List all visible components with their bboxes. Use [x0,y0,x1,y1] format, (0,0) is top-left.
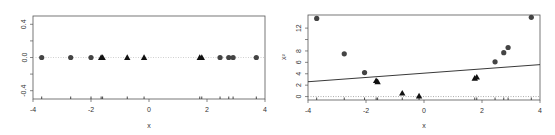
triangle-data-point [416,93,422,99]
circle-data-point [501,50,506,55]
circle-data-point [492,59,497,64]
y-tick-label: 0 [296,95,303,99]
plot-frame [308,15,540,100]
x-tick-label: -2 [88,106,94,113]
triangle-data-point [141,54,147,60]
triangle-data-point [124,54,130,60]
circle-data-point [231,55,236,60]
y-tick-label: 4 [296,72,303,76]
circle-data-point [506,45,511,50]
x-tick-label: 2 [205,106,209,113]
x-tick-label: 4 [263,106,267,113]
x-axis-title: x [422,122,426,129]
y-axis-title: x² [280,53,287,60]
y-tick-label: -0.4 [21,85,28,97]
circle-data-point [254,55,259,60]
circle-data-point [39,55,44,60]
x-axis-title: x [147,122,151,129]
decision-line [308,65,540,82]
figure: -4-2024-0.40.00.4x-4-20240246812xx² [0,0,555,135]
y-tick-label: 0.0 [21,53,28,63]
circle-data-point [217,55,222,60]
x-tick-label: 2 [480,107,484,114]
panel-right: -4-20240246812xx² [280,15,542,129]
circle-data-point [362,70,367,75]
x-tick-label: 0 [147,106,151,113]
circle-data-point [342,51,347,56]
x-tick-label: -4 [30,106,36,113]
circle-data-point [314,16,319,21]
x-tick-label: 0 [422,107,426,114]
y-tick-label: 8 [296,49,303,53]
y-tick-label: 12 [296,24,303,32]
panel-left: -4-2024-0.40.00.4x [21,16,268,129]
two-panel-scatter-plot: -4-2024-0.40.00.4x-4-20240246812xx² [0,0,555,135]
triangle-data-point [399,90,405,96]
circle-data-point [529,15,534,20]
y-tick-label: 0.4 [21,19,28,29]
x-tick-label: 4 [538,107,542,114]
circle-data-point [88,55,93,60]
circle-data-point [68,55,73,60]
x-tick-label: -4 [305,107,311,114]
y-tick-label: 6 [296,60,303,64]
x-tick-label: -2 [363,107,369,114]
y-tick-label: 2 [296,83,303,87]
